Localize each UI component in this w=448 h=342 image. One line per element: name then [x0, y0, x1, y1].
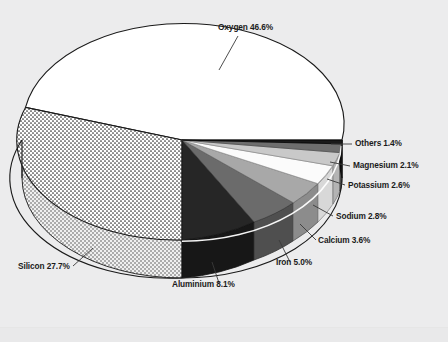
label-sodium: Sodium 2.8%	[336, 211, 387, 221]
label-silicon: Silicon 27.7%	[18, 261, 70, 271]
label-calcium: Calcium 3.6%	[318, 235, 370, 245]
label-oxygen: Oxygen 46.6%	[218, 22, 273, 32]
figure-caption-clip: Fig. 1.5 Percentage of main elements in …	[6, 328, 236, 340]
figure-panel: Oxygen 46.6% Others 1.4% Magnesium 2.1% …	[0, 0, 448, 327]
figure-caption-strip: Fig. 1.5 Percentage of main elements in …	[0, 328, 448, 342]
label-aluminium: Aluminium 8.1%	[172, 279, 235, 289]
label-magnesium: Magnesium 2.1%	[353, 160, 418, 170]
label-potassium: Potassium 2.6%	[348, 180, 410, 190]
label-iron: Iron 5.0%	[276, 257, 312, 267]
label-others: Others 1.4%	[355, 138, 402, 148]
